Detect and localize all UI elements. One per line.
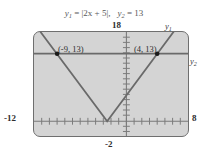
x-max-label: 8 bbox=[192, 113, 197, 123]
point-label-left: (-9, 13) bbox=[58, 44, 84, 54]
figure-root: y1 = |2x + 5|,y2 = 13 18 -2 -12 8 bbox=[0, 0, 208, 160]
curve-label-y2-subscript: 2 bbox=[194, 61, 197, 67]
caption-y1-subscript: 1 bbox=[69, 12, 72, 19]
x-axis bbox=[34, 118, 188, 125]
curve-label-y1: y1 bbox=[165, 21, 172, 32]
calculator-screen bbox=[33, 31, 189, 137]
curve-label-y1-subscript: 1 bbox=[169, 26, 172, 32]
caption-y1-equation: = |2x + 5|, bbox=[74, 8, 110, 18]
y-max-label: 18 bbox=[112, 20, 121, 30]
caption-y2-subscript: 2 bbox=[121, 12, 124, 19]
y-min-label: -2 bbox=[105, 139, 113, 149]
caption-y2-equation: = 13 bbox=[127, 8, 143, 18]
curve-label-y2: y2 bbox=[190, 56, 197, 67]
point-label-right: (4, 13) bbox=[134, 44, 157, 54]
y-axis bbox=[123, 32, 130, 136]
equation-caption: y1 = |2x + 5|,y2 = 13 bbox=[0, 8, 208, 19]
x-min-label: -12 bbox=[4, 113, 16, 123]
